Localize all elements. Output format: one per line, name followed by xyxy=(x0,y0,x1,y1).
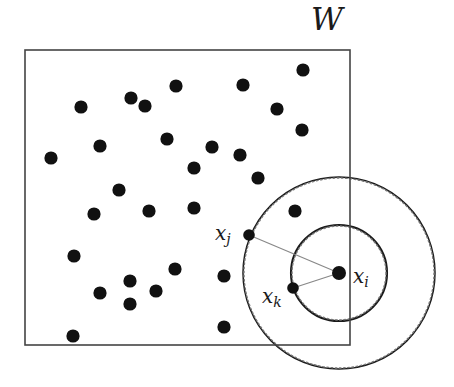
data-point xyxy=(217,320,230,333)
data-point xyxy=(288,204,301,217)
point-xk xyxy=(287,282,299,294)
data-point xyxy=(67,249,80,262)
data-point xyxy=(123,274,136,287)
data-point xyxy=(233,148,246,161)
data-point xyxy=(187,201,200,214)
data-point xyxy=(44,151,57,164)
data-point xyxy=(93,286,106,299)
window-label-W: W xyxy=(311,1,345,37)
point-xj-label: xj xyxy=(215,221,231,247)
data-point xyxy=(187,161,200,174)
data-point xyxy=(66,329,79,342)
data-point xyxy=(205,140,218,153)
figure-container: xixjxk W xyxy=(0,0,454,387)
data-point xyxy=(142,204,155,217)
data-point xyxy=(296,63,309,76)
data-point xyxy=(112,183,125,196)
data-point xyxy=(123,297,136,310)
data-point xyxy=(251,171,264,184)
data-point xyxy=(168,262,181,275)
point-process-figure: xixjxk W xyxy=(0,0,454,387)
data-point xyxy=(169,79,182,92)
data-point xyxy=(295,123,308,136)
window-label-layer: W xyxy=(311,1,345,37)
data-point xyxy=(270,102,283,115)
data-point xyxy=(138,99,151,112)
data-point xyxy=(74,100,87,113)
point-xk-label: xk xyxy=(262,284,282,310)
point-xi xyxy=(332,266,346,280)
xi-to-xk-segment xyxy=(293,273,339,288)
xi-to-xj-segment xyxy=(249,235,339,273)
point-xj xyxy=(243,229,255,241)
data-point xyxy=(87,207,100,220)
data-point xyxy=(217,269,230,282)
data-point xyxy=(160,132,173,145)
data-point xyxy=(149,284,162,297)
data-point xyxy=(124,91,137,104)
data-point xyxy=(93,139,106,152)
point-xi-label: xi xyxy=(353,264,369,290)
data-point xyxy=(236,78,249,91)
